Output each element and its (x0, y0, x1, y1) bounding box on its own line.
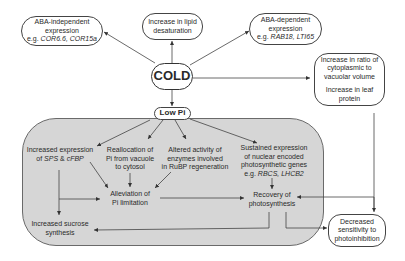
decreased-line2: sensitivity to (338, 226, 376, 235)
sustained-expression-label: Sustained expression of nuclear encoded … (236, 144, 312, 178)
of-prefix: of (36, 155, 44, 162)
aba-independent-line2: expression (45, 27, 79, 36)
eg-prefix: e.g. (27, 35, 41, 42)
sustained-line4: e.g. RBCS, LHCB2 (236, 170, 312, 179)
reallocation-label: Reallocation of Pi from vacuole to cytos… (100, 146, 160, 172)
decreased-sensitivity-node: Decreased sensitivity to photoinhibition (328, 214, 386, 247)
lipid-line1: Increase in lipid (148, 18, 197, 27)
sucrose-synthesis-label: Increased sucrose synthesis (28, 220, 92, 237)
gene-names: COR6.6, COR15a (41, 35, 97, 42)
cold-label: COLD (154, 72, 191, 81)
cytoplasm-line5: protein (339, 95, 360, 104)
sps-line2: of SPS & cFBP (25, 155, 95, 164)
sustained-line1: Sustained expression (236, 144, 312, 153)
aba-independent-node: ABA-independent expression e.g. COR6.6, … (21, 16, 103, 46)
cytoplasm-line2: cytoplasmic to (327, 64, 371, 73)
cytoplasm-line4: Increase in leaf (326, 86, 373, 95)
eg-prefix: e.g. (244, 170, 258, 177)
altered-activity-label: Altered activity of enzymes involved in … (160, 146, 230, 172)
lipid-line2: desaturation (153, 27, 192, 36)
recovery-line1: Recovery of (246, 191, 298, 200)
gene-names: RBCS, LHCB2 (258, 170, 304, 177)
aba-independent-line3: e.g. COR6.6, COR15a (27, 35, 97, 44)
amp: & (58, 155, 67, 162)
eg-prefix: e.g. (257, 33, 271, 40)
sustained-line3: photosynthetic genes (236, 161, 312, 170)
alleviation-line2: Pi limitation (102, 199, 158, 208)
decreased-line3: photoinhibition (334, 235, 379, 244)
alleviation-line1: Alleviation of (102, 190, 158, 199)
realloc-line2: Pi from vacuole (100, 155, 160, 164)
gene-cfbp: cFBP (67, 155, 84, 162)
sucrose-line1: Increased sucrose (28, 220, 92, 229)
sucrose-line2: synthesis (28, 229, 92, 238)
gene-sps: SPS (44, 155, 58, 162)
recovery-line2: photosynthesis (246, 200, 298, 209)
alleviation-label: Alleviation of Pi limitation (102, 190, 158, 207)
cytoplasm-line3: vacuolar volume (324, 73, 375, 82)
sustained-line2: of nuclear encoded (236, 153, 312, 162)
altered-line3: in RuBP regeneration (160, 163, 230, 172)
altered-line1: Altered activity of (160, 146, 230, 155)
altered-line2: enzymes involved (160, 155, 230, 164)
sps-cfbp-label: Increased expression of SPS & cFBP (25, 146, 95, 163)
decreased-line1: Decreased (340, 218, 374, 227)
realloc-line1: Reallocation of (100, 146, 160, 155)
gene-names: RAB18, LTI65 (271, 33, 314, 40)
cytoplasm-line1: Increase in ratio of (321, 56, 379, 65)
aba-independent-line1: ABA-independent (35, 18, 90, 27)
aba-dependent-line1: ABA-dependent (261, 16, 310, 25)
aba-dependent-line2: expression (269, 25, 303, 34)
realloc-line3: to cytosol (100, 163, 160, 172)
lipid-desaturation-node: Increase in lipid desaturation (142, 13, 203, 40)
cytoplasm-ratio-node: Increase in ratio of cytoplasmic to vacu… (314, 53, 385, 106)
aba-dependent-node: ABA-dependent expression e.g. RAB18, LTI… (249, 13, 322, 45)
low-pi-label: Low Pi (160, 109, 186, 118)
sps-line1: Increased expression (25, 146, 95, 155)
recovery-label: Recovery of photosynthesis (246, 191, 298, 208)
aba-dependent-line3: e.g. RAB18, LTI65 (257, 33, 314, 42)
cold-node: COLD (151, 63, 193, 90)
low-pi-node: Low Pi (154, 107, 191, 120)
